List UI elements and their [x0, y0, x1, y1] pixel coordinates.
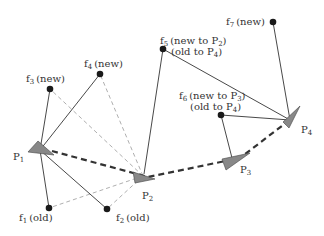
features — [46, 19, 277, 213]
feature-f1-dot — [46, 205, 53, 212]
dashed-observation-edges — [49, 74, 143, 209]
edge-p1-f1 — [40, 150, 49, 208]
feature-f7-dot — [270, 19, 277, 26]
edge-p3-f6 — [221, 115, 232, 158]
pose-p3-label: P3 — [240, 164, 251, 177]
edge-p1-f2 — [40, 150, 107, 209]
edge-p2-f3 — [50, 89, 143, 176]
edge-p2-f5 — [144, 49, 163, 174]
pose-p2-label: P2 — [142, 190, 153, 203]
feature-f6-dot — [218, 112, 225, 119]
edge-p4-f7 — [273, 22, 290, 120]
feature-f3-label: f3(new) — [26, 73, 65, 86]
feature-f4-dot — [97, 71, 104, 78]
edge-p2-f4 — [100, 74, 143, 176]
edge-p1-f4 — [40, 74, 100, 150]
feature-f6-label-line2: (old to P4) — [190, 101, 241, 114]
feature-f4-label: f4(new) — [84, 58, 123, 71]
trajectory-path — [52, 122, 287, 177]
feature-f1-label: f1(old) — [19, 212, 53, 225]
pose-graph-diagram: P1 P2 P3 P4 f1(old) f2(old) f3(new) f4(n… — [0, 0, 324, 236]
feature-f2-label: f2(old) — [116, 212, 150, 225]
edge-p1-f3 — [40, 89, 50, 150]
feature-f5-label-line2: (old to P4) — [171, 46, 222, 59]
pose-p4-label: P4 — [301, 124, 313, 137]
edge-p4-f6 — [221, 115, 290, 120]
pose-p1-label: P1 — [13, 151, 24, 164]
feature-f3-dot — [47, 86, 54, 93]
edge-p2-f1 — [49, 176, 143, 208]
feature-f2-dot — [104, 206, 111, 213]
feature-f7-label: f7(new) — [226, 16, 265, 29]
